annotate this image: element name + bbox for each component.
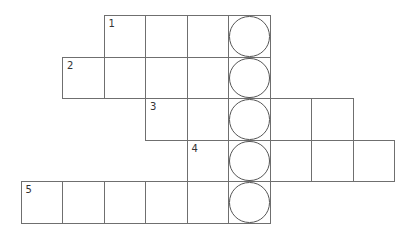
crossword-cell[interactable] bbox=[270, 98, 313, 141]
crossword-cell[interactable] bbox=[104, 57, 147, 100]
clue-number: 5 bbox=[26, 184, 32, 196]
crossword-cell[interactable] bbox=[104, 181, 147, 224]
crossword-cell[interactable] bbox=[270, 140, 313, 183]
crossword-cell[interactable] bbox=[228, 140, 271, 183]
circle-marker-icon bbox=[229, 58, 270, 99]
crossword-cell[interactable]: 5 bbox=[21, 181, 64, 224]
clue-number: 2 bbox=[67, 60, 73, 72]
crossword-cell[interactable] bbox=[228, 15, 271, 58]
crossword-cell[interactable]: 2 bbox=[62, 57, 105, 100]
clue-number: 4 bbox=[192, 143, 198, 155]
crossword-cell[interactable] bbox=[311, 140, 354, 183]
crossword-cell[interactable] bbox=[228, 98, 271, 141]
crossword-cell[interactable] bbox=[145, 57, 188, 100]
crossword-cell[interactable] bbox=[187, 57, 230, 100]
circle-marker-icon bbox=[229, 141, 270, 182]
crossword-cell[interactable] bbox=[62, 181, 105, 224]
crossword-cell[interactable] bbox=[353, 140, 396, 183]
circle-marker-icon bbox=[229, 99, 270, 140]
circle-marker-icon bbox=[229, 16, 270, 57]
crossword-grid: 12345 bbox=[0, 0, 409, 237]
crossword-cell[interactable]: 4 bbox=[187, 140, 230, 183]
crossword-cell[interactable] bbox=[187, 181, 230, 224]
crossword-cell[interactable] bbox=[187, 98, 230, 141]
crossword-cell[interactable] bbox=[228, 181, 271, 224]
crossword-cell[interactable] bbox=[311, 98, 354, 141]
crossword-cell[interactable] bbox=[145, 181, 188, 224]
clue-number: 1 bbox=[109, 18, 115, 30]
circle-marker-icon bbox=[229, 182, 270, 223]
crossword-cell[interactable] bbox=[187, 15, 230, 58]
crossword-cell[interactable] bbox=[145, 15, 188, 58]
crossword-cell[interactable] bbox=[228, 57, 271, 100]
clue-number: 3 bbox=[150, 101, 156, 113]
crossword-cell[interactable]: 3 bbox=[145, 98, 188, 141]
crossword-cell[interactable]: 1 bbox=[104, 15, 147, 58]
